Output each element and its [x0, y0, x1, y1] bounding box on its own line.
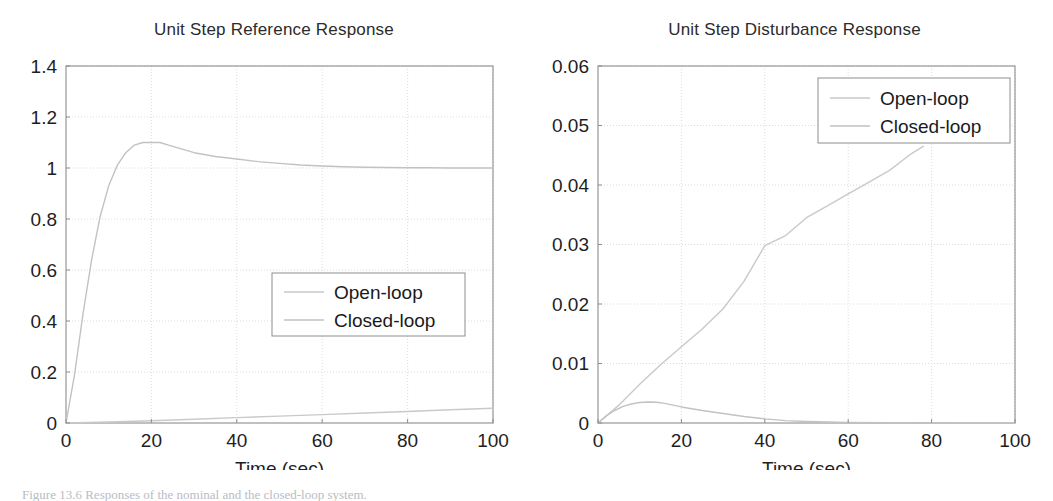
x-axis-tick-label: 20 — [141, 430, 162, 451]
x-axis-tick-label: 60 — [312, 430, 333, 451]
x-axis-tick-label: 40 — [226, 430, 247, 451]
y-axis-tick-label: 0.2 — [31, 362, 57, 383]
legend-label-open-loop: Open-loop — [334, 282, 423, 303]
y-axis-tick-label: 0.01 — [552, 353, 589, 374]
legend-label-closed-loop: Closed-loop — [334, 310, 435, 331]
series-line-closed-loop — [598, 402, 1015, 423]
y-axis-tick-label: 0.6 — [31, 260, 57, 281]
plot-frame — [66, 66, 493, 423]
x-axis-tick-label: 80 — [397, 430, 418, 451]
legend-label-open-loop: Open-loop — [880, 88, 969, 109]
x-axis-title: Time (sec) — [235, 458, 324, 470]
plot-area-reference: 00.20.40.60.811.21.4020406080100Time (se… — [0, 0, 530, 470]
x-axis-tick-label: 80 — [921, 430, 942, 451]
x-axis-title: Time (sec) — [762, 458, 851, 470]
y-axis-tick-label: 0.04 — [552, 175, 589, 196]
series-line-open-loop — [598, 146, 923, 423]
y-axis-tick-label: 0.06 — [552, 56, 589, 77]
y-axis-tick-label: 1.4 — [31, 56, 58, 77]
y-axis-tick-label: 0.02 — [552, 294, 589, 315]
x-axis-tick-label: 40 — [754, 430, 775, 451]
x-axis-tick-label: 100 — [999, 430, 1031, 451]
x-axis-tick-label: 100 — [477, 430, 509, 451]
y-axis-tick-label: 0.05 — [552, 115, 589, 136]
y-axis-tick-label: 0.8 — [31, 209, 57, 230]
y-axis-tick-label: 0 — [46, 413, 57, 434]
figure-caption: Figure 13.6 Responses of the nominal and… — [22, 487, 1022, 501]
figure-root: Unit Step Reference Response 00.20.40.60… — [0, 0, 1053, 501]
y-axis-tick-label: 1 — [46, 158, 57, 179]
chart-panel-reference: Unit Step Reference Response 00.20.40.60… — [0, 0, 530, 470]
x-axis-tick-label: 20 — [671, 430, 692, 451]
y-axis-tick-label: 0.03 — [552, 234, 589, 255]
legend: Open-loopClosed-loop — [818, 78, 1010, 143]
legend-label-closed-loop: Closed-loop — [880, 116, 981, 137]
series-line-open-loop — [66, 408, 493, 423]
x-axis-tick-label: 0 — [61, 430, 72, 451]
plot-area-disturbance: 00.010.020.030.040.050.06020406080100Tim… — [530, 0, 1053, 470]
y-axis-tick-label: 0 — [578, 413, 589, 434]
x-axis-tick-label: 0 — [593, 430, 604, 451]
y-axis-tick-label: 1.2 — [31, 107, 57, 128]
legend: Open-loopClosed-loop — [272, 273, 465, 336]
x-axis-tick-label: 60 — [838, 430, 859, 451]
y-axis-tick-label: 0.4 — [31, 311, 58, 332]
chart-panel-disturbance: Unit Step Disturbance Response 00.010.02… — [530, 0, 1053, 470]
